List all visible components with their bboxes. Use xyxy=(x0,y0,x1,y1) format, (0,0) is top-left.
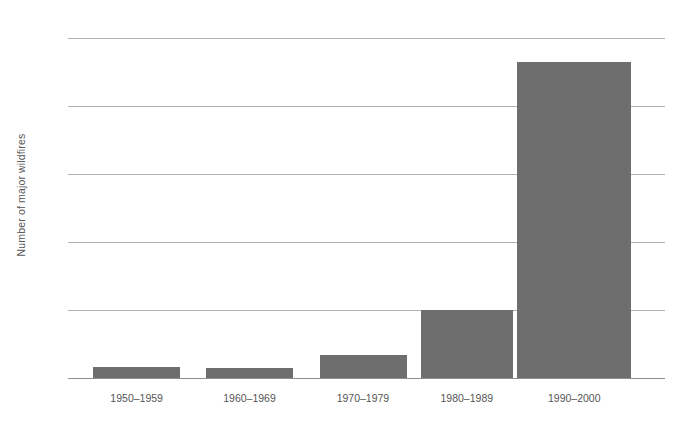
bar[interactable] xyxy=(206,368,293,378)
bar[interactable] xyxy=(421,310,513,378)
y-axis-title-text: Number of major wildfires xyxy=(15,134,27,257)
x-tick-label: 1960–1969 xyxy=(223,392,276,404)
bar[interactable] xyxy=(517,62,631,378)
x-axis-labels: 1950–19591960–19691970–19791980–19891990… xyxy=(68,392,665,412)
x-tick-label: 1990–2000 xyxy=(548,392,601,404)
x-tick-label: 1950–1959 xyxy=(110,392,163,404)
bar-chart: Number of major wildfires 01020304050 19… xyxy=(0,0,677,429)
x-tick-label: 1970–1979 xyxy=(337,392,390,404)
plot-area: 01020304050 xyxy=(68,38,665,378)
gridline-0 xyxy=(68,378,665,379)
bar[interactable] xyxy=(93,367,180,378)
bar[interactable] xyxy=(320,355,407,378)
y-axis-title: Number of major wildfires xyxy=(10,0,32,390)
x-tick-label: 1980–1989 xyxy=(441,392,494,404)
bars-group xyxy=(68,38,665,378)
